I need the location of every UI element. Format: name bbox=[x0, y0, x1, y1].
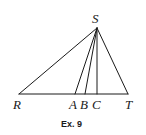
point-labels: S R A B C T bbox=[12, 11, 133, 112]
label-B: B bbox=[80, 97, 88, 112]
label-T: T bbox=[125, 97, 133, 112]
label-R: R bbox=[12, 97, 21, 112]
label-C: C bbox=[92, 97, 101, 112]
label-S: S bbox=[92, 11, 99, 26]
label-A: A bbox=[68, 97, 77, 112]
segment-SB bbox=[85, 28, 97, 94]
triangle-diagram: S R A B C T Ex. 9 bbox=[0, 0, 146, 135]
segment-ST bbox=[97, 28, 128, 94]
figure-caption: Ex. 9 bbox=[61, 119, 82, 129]
segment-SR bbox=[19, 28, 97, 94]
segments bbox=[19, 28, 128, 94]
